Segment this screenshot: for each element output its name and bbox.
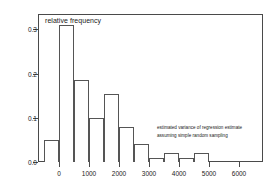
histogram-bar <box>149 158 164 162</box>
histogram-bar <box>44 140 59 162</box>
x-tick-label: 6000 <box>232 170 246 177</box>
x-tick-mark <box>239 162 240 167</box>
histogram-bar <box>179 158 194 162</box>
histogram-figure: relative frequency 0.00.10.20.3 01000200… <box>0 0 270 194</box>
x-tick-label: 1000 <box>82 170 96 177</box>
x-tick-mark <box>149 162 150 167</box>
annotation-line: assuming simple random sampling <box>157 132 242 140</box>
y-tick-label: 0.0 <box>28 159 37 166</box>
annotation-line: estimated variance of regression estimat… <box>157 124 242 132</box>
histogram-bar <box>74 80 89 162</box>
x-tick-label: 2000 <box>112 170 126 177</box>
x-tick-mark <box>209 162 210 167</box>
x-tick-label: 0 <box>57 170 61 177</box>
x-tick-label: 4000 <box>172 170 186 177</box>
histogram-bar <box>104 94 119 162</box>
histogram-bar <box>134 144 149 162</box>
y-tick-label: 0.1 <box>28 114 37 121</box>
x-tick-mark <box>179 162 180 167</box>
y-tick-label: 0.3 <box>28 26 37 33</box>
x-tick-label: 3000 <box>142 170 156 177</box>
histogram-bar <box>164 153 179 162</box>
x-tick-mark <box>89 162 90 167</box>
x-tick-mark <box>59 162 60 167</box>
y-tick-label: 0.2 <box>28 70 37 77</box>
histogram-bar <box>119 127 134 162</box>
histogram-bar <box>59 25 74 162</box>
x-tick-label: 5000 <box>202 170 216 177</box>
annotation-text: estimated variance of regression estimat… <box>157 124 242 140</box>
histogram-bar <box>89 118 104 162</box>
x-tick-mark <box>119 162 120 167</box>
histogram-bar <box>194 153 209 162</box>
